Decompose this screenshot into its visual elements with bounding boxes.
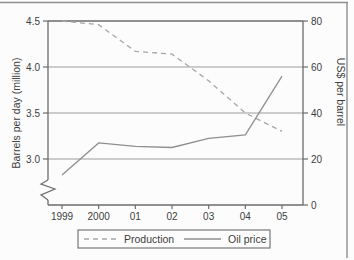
x-axis-tick-label: 02 [166,211,178,222]
right-axis-tick-label: 0 [311,200,317,211]
legend-production-label: Production [124,233,174,245]
x-axis-tick-label: 01 [130,211,142,222]
production-oil-price-chart: 4.54.03.53.0806040200199920000102030405B… [0,0,354,260]
legend-oil-price-label: Oil price [228,233,267,245]
x-axis-tick-label: 05 [276,211,288,222]
x-axis-tick-label: 03 [203,211,215,222]
left-axis-tick-label: 3.5 [26,108,40,119]
right-axis-tick-label: 20 [311,154,323,165]
x-axis-tick-label: 04 [240,211,252,222]
right-axis-title: US$ per barrel [335,58,347,126]
right-axis-tick-label: 40 [311,108,323,119]
left-axis-tick-label: 3.0 [26,154,40,165]
left-axis-tick-label: 4.0 [26,62,40,73]
oil-production-price-figure: 4.54.03.53.0806040200199920000102030405B… [0,0,354,260]
left-axis-tick-label: 4.5 [26,16,40,27]
x-axis-tick-label: 1999 [51,211,74,222]
left-axis-title: Barrels per day (million) [10,58,22,169]
right-axis-tick-label: 80 [311,16,323,27]
right-axis-tick-label: 60 [311,62,323,73]
x-axis-tick-label: 2000 [88,211,111,222]
